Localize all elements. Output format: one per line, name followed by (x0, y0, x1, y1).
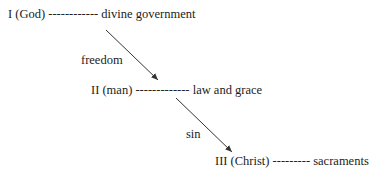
diagram-arrows (0, 0, 371, 173)
arrow-sin (176, 98, 232, 152)
arrow-freedom (106, 30, 158, 80)
